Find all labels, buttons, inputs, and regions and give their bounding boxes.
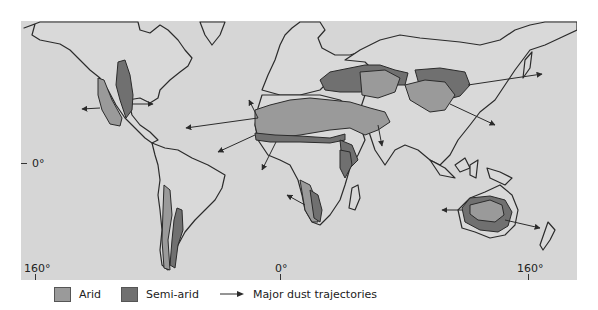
legend-item-dust-trajectories: Major dust trajectories — [219, 288, 377, 301]
landmass-new-guinea — [487, 168, 512, 185]
dust-arrow-na-west — [82, 108, 100, 109]
landmass-indonesia-3 — [470, 160, 478, 178]
dust-arrow-sahara-sw — [218, 135, 255, 152]
arrow-icon — [219, 290, 245, 298]
legend-label-semi-arid: Semi-arid — [146, 288, 199, 301]
longitude-tick-160w — [35, 274, 36, 280]
dust-arrow-sahara-atlantic — [186, 118, 258, 128]
latitude-tick-0 — [21, 163, 27, 164]
legend-item-semi-arid: Semi-arid — [121, 287, 199, 302]
world-map — [21, 21, 577, 280]
latitude-label-0: 0° — [32, 157, 45, 170]
landmass-greenland — [200, 22, 225, 45]
longitude-tick-0 — [280, 274, 281, 280]
legend-label-dust-trajectories: Major dust trajectories — [253, 288, 377, 301]
landmass-new-zealand — [540, 222, 555, 250]
landmass-north-america — [24, 22, 192, 143]
longitude-label-160w: 160° — [24, 262, 51, 275]
arid-swatch — [54, 287, 71, 302]
longitude-label-0: 0° — [275, 262, 288, 275]
longitude-label-160e: 160° — [517, 262, 544, 275]
map-legend: Arid Semi-arid Major dust trajectories — [54, 285, 397, 303]
landmass-indonesia-2 — [455, 158, 470, 172]
landmass-madagascar — [349, 185, 360, 210]
semi-arid-swatch — [121, 287, 138, 302]
longitude-tick-160e — [528, 274, 529, 280]
map-graphic — [21, 21, 577, 280]
legend-item-arid: Arid — [54, 287, 101, 302]
legend-label-arid: Arid — [79, 288, 101, 301]
